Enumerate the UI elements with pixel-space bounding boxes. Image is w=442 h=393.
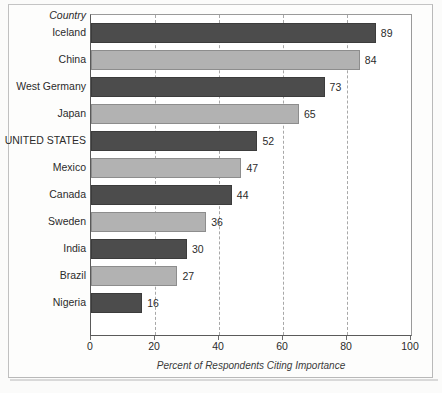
bar-row[interactable]: 27 — [91, 266, 411, 286]
bar-nigeria[interactable] — [91, 293, 142, 313]
bar-row[interactable]: 73 — [91, 77, 411, 97]
bar-united-states[interactable] — [91, 131, 257, 151]
tick-label-100: 100 — [401, 341, 419, 352]
bar-japan[interactable] — [91, 104, 299, 124]
category-label-canada: Canada — [0, 189, 86, 200]
category-label-iceland: Iceland — [0, 27, 86, 38]
bar-row[interactable]: 89 — [91, 23, 411, 43]
page-frame-shadow — [10, 379, 438, 381]
tick-label-80: 80 — [340, 341, 352, 352]
bar-value-label: 52 — [262, 136, 274, 147]
tick-label-60: 60 — [276, 341, 288, 352]
category-label-west-germany: West Germany — [0, 81, 86, 92]
bar-value-label: 16 — [147, 298, 159, 309]
bar-row[interactable]: 84 — [91, 50, 411, 70]
bar-value-label: 73 — [330, 82, 342, 93]
bar-row[interactable]: 65 — [91, 104, 411, 124]
tick-label-20: 20 — [148, 341, 160, 352]
bar-china[interactable] — [91, 50, 360, 70]
category-label-india: India — [0, 243, 86, 254]
bar-value-label: 89 — [381, 28, 393, 39]
x-axis-tick-labels: 020406080100 — [90, 341, 412, 355]
tick-label-0: 0 — [87, 341, 93, 352]
bar-row[interactable]: 30 — [91, 239, 411, 259]
x-axis-title: Percent of Respondents Citing Importance — [90, 360, 412, 371]
bar-row[interactable]: 16 — [91, 293, 411, 313]
bar-row[interactable]: 36 — [91, 212, 411, 232]
category-label-united-states: UNITED STATES — [0, 135, 86, 146]
bar-value-label: 84 — [365, 55, 377, 66]
bar-west-germany[interactable] — [91, 77, 325, 97]
bar-row[interactable]: 44 — [91, 185, 411, 205]
bar-value-label: 27 — [182, 271, 194, 282]
plot-area: 8984736552474436302716 — [90, 14, 412, 336]
bar-value-label: 44 — [237, 190, 249, 201]
bar-india[interactable] — [91, 239, 187, 259]
category-label-mexico: Mexico — [0, 162, 86, 173]
bar-value-label: 30 — [192, 244, 204, 255]
category-label-nigeria: Nigeria — [0, 297, 86, 308]
bar-iceland[interactable] — [91, 23, 376, 43]
category-label-japan: Japan — [0, 108, 86, 119]
bar-series: 8984736552474436302716 — [91, 15, 411, 335]
bar-row[interactable]: 52 — [91, 131, 411, 151]
bar-value-label: 36 — [211, 217, 223, 228]
bar-canada[interactable] — [91, 185, 232, 205]
bar-value-label: 47 — [246, 163, 258, 174]
category-label-china: China — [0, 54, 86, 65]
bar-value-label: 65 — [304, 109, 316, 120]
bar-sweden[interactable] — [91, 212, 206, 232]
tick-label-40: 40 — [212, 341, 224, 352]
bar-brazil[interactable] — [91, 266, 177, 286]
chart-figure: Country IcelandChinaWest GermanyJapanUNI… — [0, 0, 442, 393]
category-label-brazil: Brazil — [0, 270, 86, 281]
bar-row[interactable]: 47 — [91, 158, 411, 178]
category-axis-labels: IcelandChinaWest GermanyJapanUNITED STAT… — [0, 14, 86, 336]
category-label-sweden: Sweden — [0, 216, 86, 227]
bar-mexico[interactable] — [91, 158, 241, 178]
